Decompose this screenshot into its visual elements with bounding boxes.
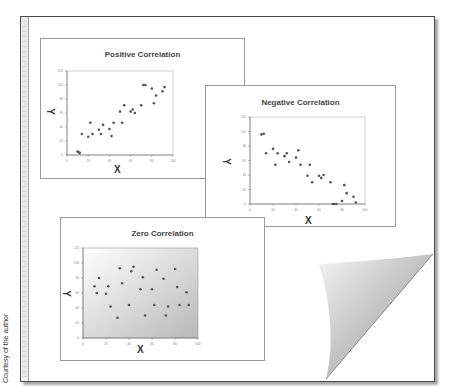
data-point xyxy=(91,133,94,136)
data-point xyxy=(162,277,165,280)
y-tick-label: 120 xyxy=(241,115,247,119)
x-tick-label: 100 xyxy=(195,342,201,346)
data-point xyxy=(109,305,112,308)
data-point xyxy=(345,192,348,195)
y-tick-label: 0 xyxy=(77,336,79,340)
data-point xyxy=(297,149,300,152)
data-point xyxy=(102,124,105,127)
x-tick-label: 100 xyxy=(362,208,368,212)
plot-area xyxy=(83,248,198,338)
data-point xyxy=(134,112,137,115)
x-tick-label: 100 xyxy=(170,159,176,163)
data-point xyxy=(322,174,325,177)
data-point xyxy=(167,305,170,308)
data-point xyxy=(352,195,355,198)
data-point xyxy=(128,304,131,307)
data-point xyxy=(108,128,111,131)
data-point xyxy=(286,152,289,155)
x-tick-label: 40 xyxy=(294,208,298,212)
data-point xyxy=(130,270,133,273)
y-tick-label: 40 xyxy=(75,306,79,310)
data-point xyxy=(276,152,279,155)
x-tick-label: 40 xyxy=(127,342,131,346)
y-tick-label: 0 xyxy=(61,153,63,157)
data-point xyxy=(318,174,321,177)
data-point xyxy=(121,282,124,285)
x-tick-label: 60 xyxy=(129,159,133,163)
data-point xyxy=(288,161,291,164)
data-point xyxy=(100,133,103,136)
y-axis-label: Y xyxy=(45,108,56,115)
data-point xyxy=(140,104,143,107)
x-tick-label: 20 xyxy=(104,342,108,346)
data-point xyxy=(89,122,92,125)
data-point xyxy=(121,122,124,125)
data-point xyxy=(151,87,154,90)
y-tick-label: 20 xyxy=(75,321,79,325)
data-point xyxy=(98,129,101,132)
data-point xyxy=(329,181,332,184)
y-tick-label: 60 xyxy=(242,159,246,163)
x-tick-label: 80 xyxy=(150,159,154,163)
data-point xyxy=(144,314,147,317)
data-point xyxy=(110,135,113,138)
plot-area xyxy=(250,117,365,204)
data-point xyxy=(272,148,275,151)
y-tick-label: 0 xyxy=(244,202,246,206)
x-tick-label: 40 xyxy=(108,159,112,163)
y-tick-label: 100 xyxy=(74,261,80,265)
data-point xyxy=(93,285,96,288)
data-point xyxy=(341,200,344,203)
data-point xyxy=(176,286,179,289)
data-point xyxy=(295,156,298,159)
data-point xyxy=(178,304,181,307)
x-tick-label: 60 xyxy=(150,342,154,346)
x-tick-label: 20 xyxy=(86,159,90,163)
data-point xyxy=(142,276,145,279)
data-point xyxy=(132,265,135,268)
x-axis-label: X xyxy=(137,344,144,355)
x-axis-label: X xyxy=(305,215,312,226)
data-point xyxy=(260,133,263,136)
row-number-cell xyxy=(22,372,27,377)
x-tick-label: 0 xyxy=(82,342,84,346)
y-tick-label: 80 xyxy=(59,97,63,101)
data-point xyxy=(283,155,286,158)
data-point xyxy=(299,164,302,167)
row-number-gutter xyxy=(21,17,29,381)
x-tick-label: 80 xyxy=(340,208,344,212)
data-point xyxy=(185,291,188,294)
data-point xyxy=(78,152,81,155)
scatter-plot: 020406080100020406080100120 xyxy=(206,86,397,228)
data-point xyxy=(112,122,115,125)
data-point xyxy=(188,304,191,307)
chart-negative-correlation: Negative Correlation 0204060801000204060… xyxy=(205,85,396,227)
data-point xyxy=(139,288,142,291)
data-point xyxy=(81,133,84,136)
y-axis-label: Y xyxy=(221,158,232,165)
y-tick-label: 80 xyxy=(75,276,79,280)
data-point xyxy=(265,152,268,155)
scatter-plot: 020406080100020406080100120 xyxy=(61,218,266,362)
data-point xyxy=(151,288,154,291)
x-tick-label: 20 xyxy=(271,208,275,212)
y-axis-label: Y xyxy=(61,290,72,297)
data-point xyxy=(274,164,277,167)
plot-area xyxy=(67,71,173,155)
x-tick-label: 60 xyxy=(317,208,321,212)
data-point xyxy=(174,268,177,271)
y-tick-label: 120 xyxy=(58,69,64,73)
x-tick-label: 80 xyxy=(173,342,177,346)
data-point xyxy=(155,94,158,97)
data-point xyxy=(355,201,358,204)
data-point xyxy=(107,285,110,288)
data-point xyxy=(129,110,132,113)
data-point xyxy=(123,104,126,107)
data-point xyxy=(119,110,122,113)
y-tick-label: 60 xyxy=(75,291,79,295)
y-tick-label: 40 xyxy=(59,125,63,129)
data-point xyxy=(144,84,147,87)
y-tick-label: 80 xyxy=(242,144,246,148)
data-point xyxy=(87,136,90,139)
data-point xyxy=(306,174,309,177)
